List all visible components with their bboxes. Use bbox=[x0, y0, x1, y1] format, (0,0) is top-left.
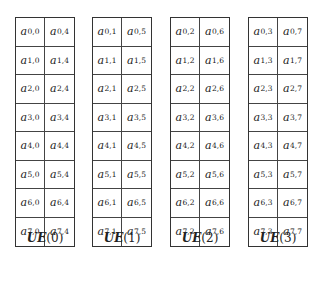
cell-index: 4,4 bbox=[57, 141, 69, 150]
matrix-cell: a2,6 bbox=[200, 75, 229, 104]
matrix-cell: a0,6 bbox=[200, 18, 229, 47]
matrix-cell: a1,3 bbox=[249, 47, 278, 76]
cell-symbol: a bbox=[50, 196, 57, 209]
cell-symbol: a bbox=[176, 168, 183, 181]
cell-symbol: a bbox=[205, 111, 212, 124]
matrix-cell: a2,3 bbox=[249, 75, 278, 104]
cell-index: 1,6 bbox=[212, 56, 224, 65]
cell-symbol: a bbox=[21, 111, 28, 124]
ue-label-prefix: UE bbox=[104, 231, 124, 245]
matrix-cell: a1,6 bbox=[200, 47, 229, 76]
cell-index: 4,0 bbox=[28, 141, 40, 150]
cell-symbol: a bbox=[176, 82, 183, 95]
matrix-cell: a1,1 bbox=[93, 47, 122, 76]
matrix-cell: a4,1 bbox=[93, 132, 122, 161]
cell-symbol: a bbox=[21, 25, 28, 38]
cell-index: 2,7 bbox=[290, 84, 302, 93]
ue-label-prefix: UE bbox=[27, 231, 47, 245]
cell-symbol: a bbox=[21, 168, 28, 181]
matrix-cell: a1,2 bbox=[171, 47, 200, 76]
cell-index: 4,1 bbox=[105, 141, 117, 150]
cell-index: 4,2 bbox=[183, 141, 195, 150]
cell-symbol: a bbox=[283, 111, 290, 124]
cell-symbol: a bbox=[21, 82, 28, 95]
matrix-cell: a6,6 bbox=[200, 189, 229, 218]
matrix-cell: a5,2 bbox=[171, 161, 200, 190]
cell-symbol: a bbox=[205, 82, 212, 95]
ue-label-index: (2) bbox=[201, 231, 218, 245]
cell-symbol: a bbox=[205, 196, 212, 209]
matrix-cell: a6,1 bbox=[93, 189, 122, 218]
cell-index: 1,7 bbox=[290, 56, 302, 65]
cell-index: 0,6 bbox=[212, 27, 224, 36]
cell-index: 2,0 bbox=[28, 84, 40, 93]
matrix-cell: a3,2 bbox=[171, 104, 200, 133]
matrix-cell: a2,0 bbox=[16, 75, 45, 104]
cell-symbol: a bbox=[176, 111, 183, 124]
cell-index: 3,4 bbox=[57, 113, 69, 122]
cell-symbol: a bbox=[50, 25, 57, 38]
cell-symbol: a bbox=[127, 168, 134, 181]
cell-index: 6,6 bbox=[212, 198, 224, 207]
cell-index: 0,3 bbox=[261, 27, 273, 36]
matrix-cell: a2,2 bbox=[171, 75, 200, 104]
cell-symbol: a bbox=[283, 196, 290, 209]
cell-index: 4,5 bbox=[134, 141, 146, 150]
cell-index: 2,6 bbox=[212, 84, 224, 93]
cell-index: 5,1 bbox=[105, 170, 117, 179]
matrix-cell: a5,3 bbox=[249, 161, 278, 190]
cell-index: 1,1 bbox=[105, 56, 117, 65]
cell-index: 2,5 bbox=[134, 84, 146, 93]
cell-symbol: a bbox=[98, 111, 105, 124]
matrix-cell: a2,5 bbox=[122, 75, 151, 104]
matrix-cell: a6,3 bbox=[249, 189, 278, 218]
cell-index: 3,2 bbox=[183, 113, 195, 122]
cell-symbol: a bbox=[98, 54, 105, 67]
matrix-cell: a0,0 bbox=[16, 18, 45, 47]
cell-index: 4,6 bbox=[212, 141, 224, 150]
cell-index: 6,7 bbox=[290, 198, 302, 207]
cell-symbol: a bbox=[254, 82, 261, 95]
matrix-cell: a5,4 bbox=[45, 161, 74, 190]
cell-symbol: a bbox=[50, 168, 57, 181]
matrix-cell: a5,7 bbox=[278, 161, 307, 190]
cell-symbol: a bbox=[21, 196, 28, 209]
ue-grid-3: a0,3a0,7a1,3a1,7a2,3a2,7a3,3a3,7a4,3a4,7… bbox=[248, 17, 308, 247]
cell-index: 6,5 bbox=[134, 198, 146, 207]
matrix-cell: a3,1 bbox=[93, 104, 122, 133]
matrix-cell: a5,5 bbox=[122, 161, 151, 190]
cell-index: 1,5 bbox=[134, 56, 146, 65]
cell-index: 4,3 bbox=[261, 141, 273, 150]
matrix-cell: a6,7 bbox=[278, 189, 307, 218]
ue-block-3: a0,3a0,7a1,3a1,7a2,3a2,7a3,3a3,7a4,3a4,7… bbox=[248, 17, 308, 247]
cell-symbol: a bbox=[127, 82, 134, 95]
cell-index: 2,3 bbox=[261, 84, 273, 93]
cell-symbol: a bbox=[283, 25, 290, 38]
cell-symbol: a bbox=[21, 54, 28, 67]
ue-grid-1: a0,1a0,5a1,1a1,5a2,1a2,5a3,1a3,5a4,1a4,5… bbox=[92, 17, 152, 247]
matrix-cell: a2,7 bbox=[278, 75, 307, 104]
matrix-cell: a4,0 bbox=[16, 132, 45, 161]
cell-index: 1,0 bbox=[28, 56, 40, 65]
matrix-cell: a4,7 bbox=[278, 132, 307, 161]
cell-index: 5,6 bbox=[212, 170, 224, 179]
cell-symbol: a bbox=[254, 54, 261, 67]
matrix-cell: a3,0 bbox=[16, 104, 45, 133]
cell-index: 6,1 bbox=[105, 198, 117, 207]
cell-index: 0,0 bbox=[28, 27, 40, 36]
ue-label-index: (3) bbox=[279, 231, 296, 245]
cell-symbol: a bbox=[205, 139, 212, 152]
cell-symbol: a bbox=[127, 54, 134, 67]
cell-index: 3,0 bbox=[28, 113, 40, 122]
cell-symbol: a bbox=[283, 139, 290, 152]
cell-symbol: a bbox=[98, 82, 105, 95]
cell-index: 3,1 bbox=[105, 113, 117, 122]
matrix-cell: a4,5 bbox=[122, 132, 151, 161]
cell-symbol: a bbox=[254, 139, 261, 152]
cell-symbol: a bbox=[98, 196, 105, 209]
matrix-cell: a2,4 bbox=[45, 75, 74, 104]
cell-symbol: a bbox=[127, 139, 134, 152]
cell-symbol: a bbox=[176, 196, 183, 209]
cell-symbol: a bbox=[205, 168, 212, 181]
ue-block-0: a0,0a0,4a1,0a1,4a2,0a2,4a3,0a3,4a4,0a4,4… bbox=[15, 17, 75, 247]
